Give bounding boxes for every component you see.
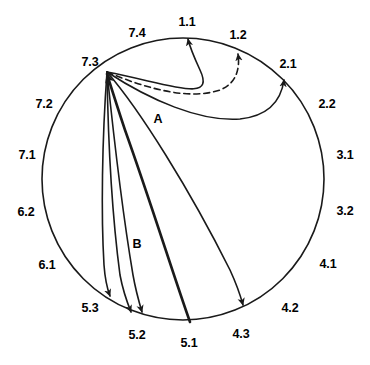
diagram-canvas: 1.11.22.12.23.13.24.14.24.35.15.25.36.16… bbox=[0, 0, 370, 365]
node-label-4_1: 4.1 bbox=[320, 258, 337, 271]
node-label-7_2: 7.2 bbox=[36, 98, 53, 111]
node-label-3_2: 3.2 bbox=[337, 205, 354, 218]
circular-arc-diagram bbox=[0, 0, 370, 365]
node-label-4_2: 4.2 bbox=[282, 302, 299, 315]
node-label-4_3: 4.3 bbox=[233, 328, 250, 341]
node-label-1_2: 1.2 bbox=[230, 29, 247, 42]
arc-7_3-to-5_3 bbox=[102, 72, 110, 296]
arc-7_3-to-1_2 bbox=[107, 54, 239, 94]
node-label-5_1: 5.1 bbox=[181, 337, 198, 350]
arcs-group bbox=[102, 39, 284, 322]
node-label-3_1: 3.1 bbox=[337, 149, 354, 162]
node-label-6_2: 6.2 bbox=[18, 206, 35, 219]
node-label-1_1: 1.1 bbox=[179, 16, 196, 29]
node-label-5_2: 5.2 bbox=[129, 329, 146, 342]
node-label-7_3: 7.3 bbox=[82, 56, 99, 69]
arc-label-b: B bbox=[132, 238, 141, 251]
node-label-7_1: 7.1 bbox=[19, 149, 36, 162]
node-label-7_4: 7.4 bbox=[129, 27, 146, 40]
arc-label-a: A bbox=[153, 113, 162, 126]
node-label-5_3: 5.3 bbox=[82, 302, 99, 315]
arc-5_1-to-7_3 bbox=[107, 74, 190, 322]
node-label-2_2: 2.2 bbox=[319, 98, 336, 111]
node-label-2_1: 2.1 bbox=[280, 58, 297, 71]
arc-7_3-to-2_1 bbox=[107, 72, 284, 119]
outer-circle bbox=[42, 38, 324, 320]
node-label-6_1: 6.1 bbox=[39, 259, 56, 272]
